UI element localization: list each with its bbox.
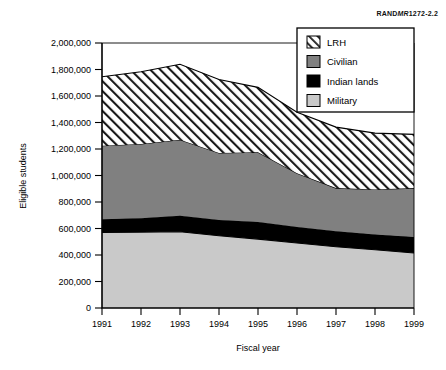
- x-tick-label: 1995: [248, 319, 268, 329]
- source-tag-prefix: RAND: [376, 10, 397, 17]
- stacked-area-chart: 0200,000400,000600,000800,0001,000,0001,…: [0, 0, 446, 370]
- legend-swatch-lrh: [307, 36, 320, 48]
- figure-container: RANDMR1272-2.2 0200,000400,000600,000800…: [0, 0, 446, 370]
- legend-label-indian-lands: Indian lands: [327, 76, 378, 87]
- x-tick-label: 1991: [92, 319, 112, 329]
- source-tag-italic: MR: [397, 10, 408, 17]
- legend-label-military: Military: [327, 95, 357, 106]
- y-tick-label: 1,600,000: [51, 91, 91, 101]
- source-tag-suffix: 1272-2.2: [409, 10, 438, 17]
- chart-legend: LRHCivilianIndian landsMilitary: [297, 28, 414, 112]
- y-tick-label: 1,200,000: [51, 144, 91, 154]
- legend-label-lrh: LRH: [327, 37, 346, 48]
- y-tick-label: 1,400,000: [51, 118, 91, 128]
- x-tick-label: 1997: [326, 319, 346, 329]
- y-tick-label: 800,000: [58, 197, 91, 207]
- rand-source-tag: RANDMR1272-2.2: [376, 10, 438, 17]
- x-axis-title: Fiscal year: [236, 343, 280, 353]
- legend-swatch-indian-lands: [307, 75, 320, 87]
- legend-swatch-military: [307, 95, 320, 107]
- y-tick-label: 0: [86, 303, 91, 313]
- x-tick-label: 1996: [287, 319, 307, 329]
- legend-swatch-civilian: [307, 56, 320, 68]
- legend-label-civilian: Civilian: [327, 56, 358, 67]
- y-tick-label: 2,000,000: [51, 38, 91, 48]
- y-tick-label: 400,000: [58, 250, 91, 260]
- x-axis-ticks: 199119921993199419951996199719981999: [92, 308, 424, 329]
- x-tick-label: 1999: [404, 319, 424, 329]
- y-tick-label: 1,800,000: [51, 65, 91, 75]
- y-axis-ticks: 0200,000400,000600,000800,0001,000,0001,…: [51, 38, 102, 313]
- x-tick-label: 1993: [170, 319, 190, 329]
- x-tick-label: 1994: [209, 319, 229, 329]
- y-axis-title: Eligible students: [18, 143, 28, 209]
- x-tick-label: 1998: [365, 319, 385, 329]
- y-tick-label: 1,000,000: [51, 171, 91, 181]
- x-tick-label: 1992: [131, 319, 151, 329]
- y-tick-label: 600,000: [58, 224, 91, 234]
- y-tick-label: 200,000: [58, 277, 91, 287]
